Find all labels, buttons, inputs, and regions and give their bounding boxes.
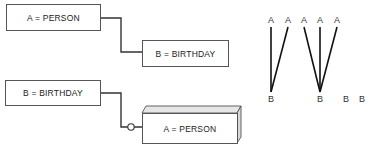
label-a: A (317, 15, 323, 25)
label-a: A (285, 15, 291, 25)
entity-label: A = PERSON (27, 13, 80, 23)
label-b: B (359, 94, 365, 104)
entity-box-person: A = PERSON (6, 4, 101, 31)
entity-label: B = BIRTHDAY (23, 88, 83, 98)
entity-label: B = BIRTHDAY (156, 49, 216, 59)
relationship-connector-1 (100, 18, 142, 52)
label-a: A (301, 15, 307, 25)
label-b: B (317, 94, 323, 104)
label-b: B (268, 94, 274, 104)
relationship-connector-2 (100, 93, 142, 127)
label-a: A (268, 15, 274, 25)
label-a: A (334, 15, 340, 25)
entity-label: A = PERSON (164, 124, 217, 134)
optional-circle-icon (128, 124, 134, 130)
box-top-face (142, 106, 241, 113)
entity-box-birthday: B = BIRTHDAY (142, 40, 229, 67)
entity-box-person-3d: A = PERSON (142, 113, 238, 144)
label-b: B (343, 94, 349, 104)
entity-box-birthday: B = BIRTHDAY (5, 80, 101, 106)
